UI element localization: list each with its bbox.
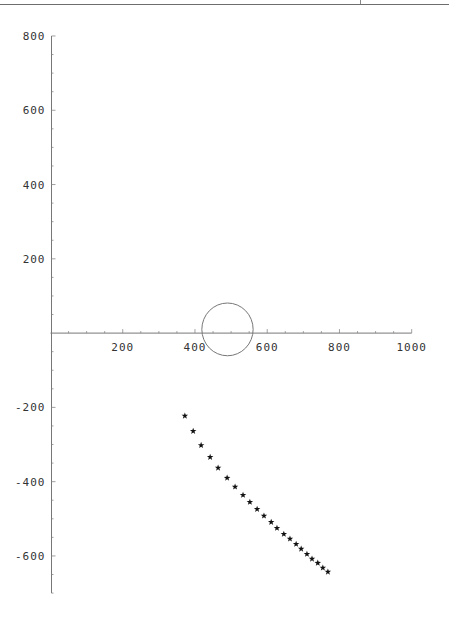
y-tick-label: -600 xyxy=(15,550,46,563)
star-marker xyxy=(309,556,315,562)
x-tick-label: 600 xyxy=(256,341,279,354)
axes: 2004006008001000-600-400-200200400600800 xyxy=(15,30,427,593)
y-tick-label: 400 xyxy=(23,179,46,192)
star-marker xyxy=(182,413,188,419)
x-tick-label: 200 xyxy=(111,341,134,354)
star-marker xyxy=(287,535,293,541)
star-marker xyxy=(298,545,304,551)
x-tick-label: 800 xyxy=(328,341,351,354)
scatter-plot: 2004006008001000-600-400-200200400600800 xyxy=(0,0,449,627)
star-marker xyxy=(207,454,213,460)
circle-shape xyxy=(202,303,253,356)
star-marker xyxy=(190,428,196,434)
star-marker xyxy=(315,560,321,566)
star-marker xyxy=(274,525,280,531)
star-marker xyxy=(320,564,326,570)
star-marker xyxy=(198,442,204,448)
x-tick-label: 400 xyxy=(184,341,207,354)
y-tick-label: 800 xyxy=(23,30,46,43)
data-points xyxy=(182,413,332,575)
star-marker xyxy=(325,569,331,575)
y-tick-label: 200 xyxy=(23,253,46,266)
x-tick-label: 1000 xyxy=(396,341,427,354)
star-marker xyxy=(304,551,310,557)
plot-shapes xyxy=(202,303,253,356)
y-tick-label: -400 xyxy=(15,476,46,489)
star-marker xyxy=(224,475,230,481)
star-marker xyxy=(268,519,274,525)
star-marker xyxy=(215,465,221,471)
star-marker xyxy=(232,483,238,489)
star-marker xyxy=(247,499,253,505)
y-tick-label: 600 xyxy=(23,104,46,117)
star-marker xyxy=(261,512,267,518)
star-marker xyxy=(254,506,260,512)
star-marker xyxy=(281,531,287,537)
star-marker xyxy=(293,541,299,547)
y-tick-label: -200 xyxy=(15,401,46,414)
star-marker xyxy=(240,492,246,498)
